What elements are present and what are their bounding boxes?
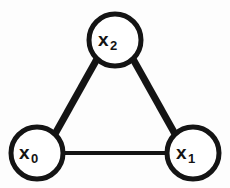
node-x1-label: x1 (176, 143, 195, 162)
node-x2-label-base: x (98, 29, 109, 50)
edges-group (55, 59, 175, 153)
node-x0-label-subscript: 0 (31, 151, 39, 166)
node-x2-label: x2 (98, 30, 117, 49)
edge-x2-x1 (133, 59, 175, 134)
node-x1-label-subscript: 1 (188, 151, 196, 166)
graph-figure: x0x1x2 (0, 0, 230, 188)
node-x2-label-subscript: 2 (110, 38, 118, 53)
node-x0-label-base: x (19, 142, 30, 163)
node-x1-label-base: x (176, 142, 187, 163)
node-x0-label: x0 (19, 143, 38, 162)
edge-x0-x2 (55, 59, 97, 134)
